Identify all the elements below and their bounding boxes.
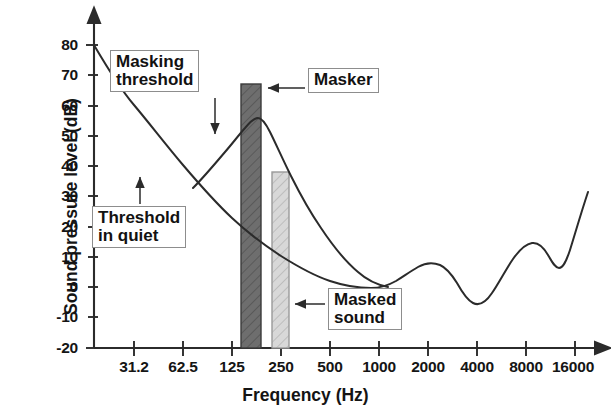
x-tick-label-500: 500 [317,358,342,376]
annotation-threshold-in-quiet: Threshold in quiet [92,206,186,248]
x-tick-label-250: 250 [268,358,293,376]
x-tick-label-16000: 16000 [552,358,594,376]
annotation-masking-threshold: Masking threshold [110,50,199,92]
x-tick-label-4000: 4000 [460,358,494,376]
x-tick-label-2000: 2000 [411,358,445,376]
y-tick-label-80: 80 [36,36,78,54]
x-tick-label-31-2: 31.2 [119,358,148,376]
x-tick-label-125: 125 [219,358,244,376]
x-tick-label-1000: 1000 [362,358,396,376]
x-tick-label-62-5: 62.5 [168,358,197,376]
y-axis-title: Sound pressure level (dB) [61,57,82,357]
x-tick-label-8000: 8000 [509,358,543,376]
x-axis-title: Frequency (Hz) [0,385,611,406]
annotation-leaders [140,88,325,304]
annotation-masked-sound: Masked sound [328,288,402,330]
masker-bar [241,84,261,348]
masking-threshold-figure: 80 70 60 50 40 30 20 10 0 -10 -20 31.2 6… [0,0,611,419]
y-axis-ticks [86,45,98,348]
annotation-masker: Masker [308,68,379,93]
